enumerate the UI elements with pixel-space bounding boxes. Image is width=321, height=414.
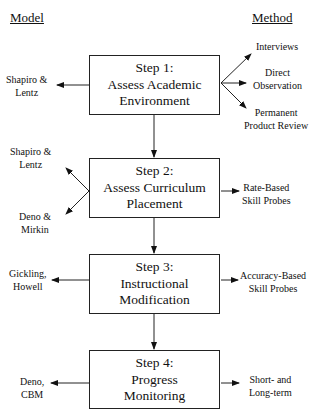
step-title: Step 2: [90, 163, 219, 180]
step-title: Step 1: [90, 60, 219, 77]
step-line: Placement [90, 196, 219, 213]
step-4-box: Step 4: Progress Monitoring [89, 350, 220, 409]
step-title: Step 3: [90, 259, 219, 276]
step-2-box: Step 2: Assess Curriculum Placement [89, 158, 220, 218]
step-title: Step 4: [90, 355, 219, 372]
model-label: Deno &Mirkin [19, 210, 51, 236]
method-label: Short- andLong-term [249, 373, 292, 399]
method-header: Method [252, 10, 292, 26]
model-label: Shapiro &Lentz [10, 145, 51, 171]
step-1-box: Step 1: Assess Academic Environment [89, 55, 220, 115]
step-line: Assess Curriculum [90, 180, 219, 197]
method-label: Accuracy-BasedSkill Probes [240, 269, 306, 295]
method-label: Interviews [256, 40, 298, 53]
model-header: Model [10, 10, 44, 26]
step-line: Modification [90, 292, 219, 309]
step-line: Monitoring [90, 388, 219, 405]
step-line: Instructional [90, 276, 219, 293]
step-line: Assess Academic [90, 77, 219, 94]
method-label: PermanentProduct Review [244, 106, 308, 132]
method-label: Rate-BasedSkill Probes [242, 181, 291, 207]
step-line: Environment [90, 93, 219, 110]
step-3-box: Step 3: Instructional Modification [89, 254, 220, 314]
model-label: Gickling,Howell [9, 267, 47, 293]
model-label: Shapiro &Lentz [6, 73, 47, 99]
step-line: Progress [90, 372, 219, 389]
method-label: DirectObservation [253, 66, 302, 92]
model-label: Deno,CBM [20, 375, 44, 401]
